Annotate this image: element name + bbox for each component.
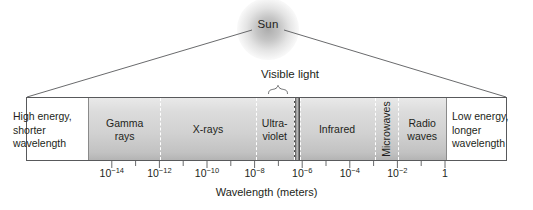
tick-label-1: 10−12 (147, 167, 171, 179)
spectrum-bar: GammaraysX-raysUltra-violetInfraredMicro… (88, 98, 447, 160)
left-energy-caption: High energy,shorterwavelength (13, 110, 85, 151)
band-divider (160, 98, 161, 160)
tick-exponent: −2 (399, 166, 408, 175)
em-spectrum-figure: Sun Visible light High energy,shorterwav… (0, 0, 533, 210)
band-radio-waves: Radiowaves (398, 98, 446, 160)
band-x-rays: X-rays (160, 98, 255, 160)
tick-label-2: 10−10 (195, 167, 219, 179)
tick-label-3: 10−8 (244, 167, 264, 179)
band-divider (375, 98, 376, 160)
band-divider (398, 98, 399, 160)
axis-title: Wavelength (meters) (88, 186, 445, 198)
band-gamma-rays: Gammarays (89, 98, 160, 160)
tick-exponent: −10 (206, 166, 219, 175)
visible-light-callout-label: Visible light (225, 68, 355, 80)
tick-exponent: −6 (304, 166, 313, 175)
right-energy-caption: Low energy,longerwavelength (452, 110, 530, 151)
tick-label-5: 10−4 (340, 167, 360, 179)
sun-label: Sun (237, 18, 299, 30)
band-divider (294, 98, 295, 160)
sun-glow-icon (237, 0, 299, 60)
tick-label-6: 10−2 (387, 167, 407, 179)
band-label: Microwaves (380, 101, 393, 156)
band-label: X-rays (160, 123, 255, 136)
tick-exponent: −14 (111, 166, 124, 175)
tick-label-0: 10−14 (100, 167, 124, 179)
tick-label-4: 10−6 (292, 167, 312, 179)
band-infrared: Infrared (300, 98, 375, 160)
band-label: Gammarays (89, 117, 160, 142)
band-divider (300, 98, 301, 160)
band-label: Infrared (300, 123, 375, 136)
tick-label-7: 1 (442, 167, 448, 179)
band-divider (256, 98, 257, 160)
tick-exponent: −8 (256, 166, 265, 175)
tick-exponent: −4 (351, 166, 360, 175)
band-ultraviolet: Ultra-violet (256, 98, 294, 160)
band-label: Ultra-violet (256, 117, 294, 142)
tick-exponent: −12 (159, 166, 172, 175)
band-microwaves: Microwaves (375, 98, 399, 160)
band-label: Radiowaves (398, 117, 446, 142)
